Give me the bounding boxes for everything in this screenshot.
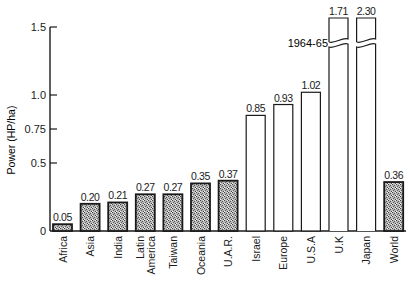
- category-label: Africa: [57, 236, 69, 263]
- category-label: Europe: [277, 236, 289, 270]
- x-axis-labels: AfricaAsiaIndiaLatinAmericaTaiwanOceania…: [57, 236, 400, 275]
- value-label: 0.35: [191, 170, 210, 182]
- category-label: Taiwan: [167, 236, 179, 269]
- y-axis-title: Power (HP/ha): [5, 106, 17, 175]
- value-label: 0.20: [81, 191, 100, 203]
- value-label: 0.05: [53, 211, 72, 223]
- y-tick-label: 0.5: [31, 157, 46, 169]
- bar-taiwan: 0.27: [163, 181, 182, 231]
- y-tick-label: 1.0: [31, 89, 46, 101]
- y-tick-label: 0: [40, 225, 46, 237]
- category-label: U.S.A: [305, 236, 317, 263]
- y-tick-label: 1.5: [31, 21, 46, 33]
- bar-u-s-a: 1.02: [301, 79, 320, 231]
- category-label: India: [112, 236, 124, 259]
- bar-oceania: 0.35: [191, 170, 210, 231]
- category-label: U.A.R.: [222, 236, 234, 267]
- value-label: 2.30: [357, 5, 376, 17]
- bar-u-a-r: 0.37: [219, 168, 238, 231]
- bar-israel: 0.85: [246, 102, 265, 231]
- value-label: 0.36: [384, 169, 403, 181]
- value-label: 0.21: [108, 189, 127, 201]
- bar-india: 0.21: [108, 189, 127, 231]
- break-annotation: 1964-65: [288, 37, 328, 49]
- category-label: Oceania: [195, 236, 207, 275]
- value-label: 0.37: [219, 168, 238, 180]
- category-label: America: [145, 236, 157, 275]
- category-label: World: [388, 236, 400, 263]
- value-label: 0.27: [136, 181, 155, 193]
- value-label: 0.85: [246, 102, 265, 114]
- category-label: U.K: [333, 236, 345, 254]
- bar-asia: 0.20: [81, 191, 100, 231]
- category-label: Asia: [84, 236, 96, 257]
- bars-group: 0.050.200.210.270.270.350.370.850.931.02…: [53, 5, 404, 231]
- value-label: 0.27: [163, 181, 182, 193]
- value-label: 0.93: [274, 92, 293, 104]
- bar-japan: 2.30: [357, 5, 376, 231]
- value-label: 1.71: [329, 5, 348, 17]
- category-label: Japan: [360, 236, 372, 265]
- value-label: 1.02: [301, 79, 320, 91]
- bar-europe: 0.93: [274, 92, 293, 231]
- bar-latin-america: 0.27: [136, 181, 155, 231]
- bar-africa: 0.05: [53, 211, 72, 231]
- bar-chart: 00.50.751.01.5 0.050.200.210.270.270.350…: [0, 0, 413, 281]
- y-tick-label: 0.75: [25, 123, 46, 135]
- category-label: Israel: [250, 236, 262, 262]
- bar-world: 0.36: [384, 169, 403, 231]
- bar-u-k: 1.71: [329, 5, 348, 231]
